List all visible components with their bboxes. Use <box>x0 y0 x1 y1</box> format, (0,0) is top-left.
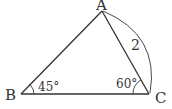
angle-label-c: 60° <box>116 77 137 91</box>
angle-arc-b <box>30 85 34 94</box>
vertex-label-a: A <box>95 0 107 14</box>
side-ab <box>21 11 102 94</box>
triangle-diagram: A B C 45° 60° 2 <box>0 0 172 109</box>
vertex-label-b: B <box>5 86 16 104</box>
vertex-label-c: C <box>155 89 166 107</box>
side-label-ac: 2 <box>131 37 140 53</box>
angle-label-b: 45° <box>38 80 59 94</box>
